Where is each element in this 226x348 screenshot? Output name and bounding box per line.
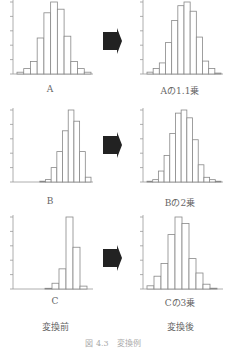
label-b-after: Bの2乗 [155, 196, 205, 209]
figure-caption: 図 4.3 変換例 [0, 337, 226, 348]
histogram-a [5, 0, 95, 78]
label-a: A [40, 84, 60, 94]
label-c: C [45, 296, 65, 306]
histogram-a-after [135, 0, 225, 78]
arrow-right-icon [103, 245, 123, 275]
histogram-c [5, 215, 95, 293]
histogram-c-after [135, 215, 225, 293]
arrow-right-icon [103, 132, 123, 162]
label-c-after: Cの3乗 [155, 296, 205, 309]
histogram-b [5, 108, 95, 186]
label-a-after: Aの1.1乗 [150, 84, 210, 97]
label-after: 変換後 [160, 320, 200, 333]
label-b: B [40, 196, 60, 206]
arrow-right-icon [103, 28, 123, 58]
histogram-b-after [135, 108, 225, 186]
label-before: 変換前 [35, 320, 75, 333]
